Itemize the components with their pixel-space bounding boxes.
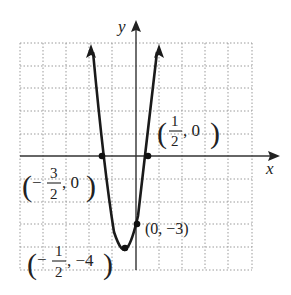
y-intercept [134,221,141,228]
left-arrow-icon [86,44,96,58]
x-axis-label: x [265,159,274,178]
svg-text:): ) [210,116,220,150]
label-vertex: ( − 1 2 , −4 ) [27,243,113,281]
svg-text:2: 2 [55,264,63,280]
label-y-intercept: (0, −3) [145,220,189,238]
svg-text:(: ( [22,169,32,203]
svg-text:1: 1 [55,243,63,259]
svg-text:, 0: , 0 [62,173,79,192]
svg-text:−: − [37,250,47,269]
svg-text:): ) [103,247,113,281]
label-x-intercept-left: ( − 3 2 , 0 ) [22,165,96,203]
svg-text:1: 1 [171,113,179,129]
svg-text:3: 3 [50,165,58,181]
svg-text:−: − [32,173,42,192]
label-x-intercept-right: ( 1 2 , 0 ) [157,113,220,150]
svg-text:, 0: , 0 [183,121,200,140]
x-intercept-left [99,153,106,160]
svg-text:, −4: , −4 [67,251,94,270]
y-axis-label: y [116,17,126,36]
right-arrow-icon [154,44,164,58]
svg-text:): ) [86,169,96,203]
vertex [122,245,129,252]
svg-text:2: 2 [50,186,58,202]
svg-text:(: ( [157,116,167,150]
svg-text:2: 2 [171,133,179,149]
x-intercept-right [145,153,152,160]
parabola-graph: x y ( 1 2 , 0 ) ( − 3 2 , 0 ) (0, −3) ( … [0,0,291,295]
svg-text:(: ( [27,247,37,281]
